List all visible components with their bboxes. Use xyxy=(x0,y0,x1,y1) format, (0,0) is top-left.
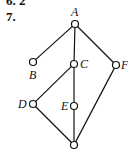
node-bottom xyxy=(71,142,78,149)
node-label-A: A xyxy=(70,5,79,19)
node-E xyxy=(71,103,78,110)
edge-C-D xyxy=(36,66,72,101)
node-D xyxy=(30,101,37,108)
edge-A-B xyxy=(36,26,73,59)
node-label-B: B xyxy=(29,68,37,82)
edge-A-C xyxy=(74,27,75,60)
hasse-diagram: ABCFDE xyxy=(0,0,128,153)
node-label-F: F xyxy=(120,58,128,72)
node-label-D: D xyxy=(17,97,27,111)
edge-F-bottom xyxy=(76,68,115,142)
node-label-C: C xyxy=(80,57,89,71)
node-B xyxy=(30,59,37,66)
node-C xyxy=(71,61,78,68)
node-label-E: E xyxy=(60,99,69,113)
node-F xyxy=(113,62,120,69)
node-A xyxy=(72,21,79,28)
